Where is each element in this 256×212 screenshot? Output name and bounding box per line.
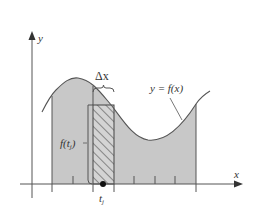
y-axis-label: y [37,32,43,44]
hatched-strip [93,105,114,184]
sample-point-dot [100,181,106,187]
x-axis-label: x [233,168,239,180]
curve-label: y = f(x) [149,82,183,95]
riemann-sum-diagram: y x Δx y = f(x) f(tj) tj [0,0,256,212]
x-axis-arrow-icon [234,181,243,188]
curve-label-leader [170,98,182,120]
y-axis-arrow-icon [29,31,36,40]
f-tj-label: f(tj) [60,137,76,151]
tj-label: tj [99,192,104,206]
delta-x-label: Δx [95,69,109,83]
